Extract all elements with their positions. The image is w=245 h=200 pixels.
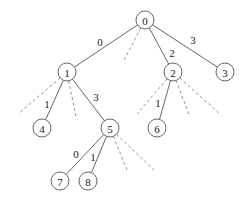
node-label: 3 xyxy=(222,67,228,79)
tree-edge xyxy=(153,25,218,67)
node-label: 8 xyxy=(85,176,91,188)
node-label: 2 xyxy=(170,67,176,79)
tree-node: 1 xyxy=(58,63,76,81)
node-label: 6 xyxy=(154,123,160,135)
node-label: 4 xyxy=(39,123,45,135)
dashed-edge xyxy=(69,81,76,117)
tree-edge xyxy=(74,25,137,67)
dashed-edge xyxy=(117,134,154,170)
edge-label: 3 xyxy=(190,34,196,46)
edge-label: 1 xyxy=(90,151,96,163)
tree-edge xyxy=(72,79,104,121)
edge-labels: 02313101 xyxy=(44,34,196,163)
edge-label: 2 xyxy=(169,47,175,59)
tree-edges xyxy=(46,25,218,175)
tree-node: 3 xyxy=(216,63,234,81)
edge-label: 0 xyxy=(73,148,79,160)
tree-edge xyxy=(66,135,104,175)
edge-label: 1 xyxy=(155,97,161,109)
tree-node: 6 xyxy=(148,119,166,137)
edge-label: 3 xyxy=(93,91,99,103)
edge-label: 0 xyxy=(97,36,103,48)
edge-label: 1 xyxy=(44,98,50,110)
node-label: 7 xyxy=(57,176,63,188)
tree-edge xyxy=(159,81,170,120)
node-label: 1 xyxy=(64,67,70,79)
tree-diagram: 02313101 012345678 xyxy=(0,0,245,200)
tree-node: 2 xyxy=(164,63,182,81)
tree-nodes: 012345678 xyxy=(33,11,234,190)
dashed-edge xyxy=(113,136,127,170)
tree-node: 5 xyxy=(101,119,119,137)
dashed-edge xyxy=(180,78,220,114)
tree-node: 4 xyxy=(33,119,51,137)
tree-node: 0 xyxy=(136,11,154,29)
dashed-edge xyxy=(18,78,60,114)
tree-node: 8 xyxy=(79,172,97,190)
tree-node: 7 xyxy=(51,172,69,190)
node-label: 0 xyxy=(142,15,148,27)
node-label: 5 xyxy=(107,123,113,135)
